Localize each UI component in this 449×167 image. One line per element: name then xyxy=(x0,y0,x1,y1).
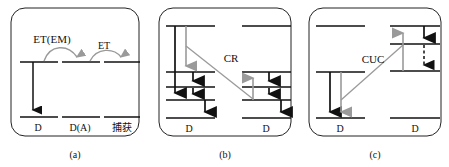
ion-label-d: D xyxy=(411,123,418,134)
panel-caption-b: (b) xyxy=(219,149,231,161)
panel-c: CUC D D (c) xyxy=(300,0,449,167)
ion-label-da: D(A) xyxy=(69,122,90,134)
panel-caption-c: (c) xyxy=(369,149,380,161)
ion-label-d: D xyxy=(336,123,343,134)
process-label-cuc: CUC xyxy=(362,53,385,65)
process-label-cr: CR xyxy=(224,52,239,64)
process-label-et: ET xyxy=(98,40,110,51)
process-label-et-em: ET(EM) xyxy=(33,33,71,46)
ion-label-d: D xyxy=(185,123,192,134)
panel-caption-a: (a) xyxy=(69,149,80,161)
figure-root: ET(EM) ET D D(A) 捕获 (a) xyxy=(0,0,449,167)
energy-transfer-arc xyxy=(90,50,121,61)
panel-b: CR D D (b) xyxy=(150,0,300,167)
ion-label-d: D xyxy=(34,122,41,133)
ion-label-d: D xyxy=(262,123,269,134)
energy-transfer-arc xyxy=(44,48,77,61)
ion-label-capture: 捕获 xyxy=(112,121,132,133)
panel-a: ET(EM) ET D D(A) 捕获 (a) xyxy=(0,0,150,167)
